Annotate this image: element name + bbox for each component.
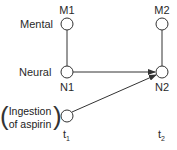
node-n2-label: N2: [152, 81, 172, 93]
node-m2-label: M2: [152, 4, 172, 16]
row-label-neural: Neural: [19, 66, 51, 78]
node-n1-label: N1: [57, 81, 77, 93]
node-ingestion-circle: [61, 110, 73, 122]
close-paren: ): [53, 102, 62, 130]
time-label-t2: t2: [158, 128, 165, 145]
time-label-t1: t1: [63, 128, 70, 145]
arrow-ingestion-n2: [72, 75, 156, 112]
cause-label: Ingestion of aspirin: [8, 105, 52, 131]
node-n1-circle: [61, 66, 73, 78]
node-m1-label: M1: [57, 4, 77, 16]
cause-line-2: of aspirin: [8, 118, 52, 131]
cause-line-1: Ingestion: [8, 105, 52, 118]
t2-sub: 2: [161, 135, 165, 142]
node-m1-circle: [61, 18, 73, 30]
cause-ingestion-of-aspirin: ( Ingestion of aspirin ): [2, 104, 52, 132]
t1-sub: 1: [66, 135, 70, 142]
row-label-mental: Mental: [20, 18, 53, 30]
node-n2-circle: [156, 66, 168, 78]
node-m2-circle: [156, 18, 168, 30]
